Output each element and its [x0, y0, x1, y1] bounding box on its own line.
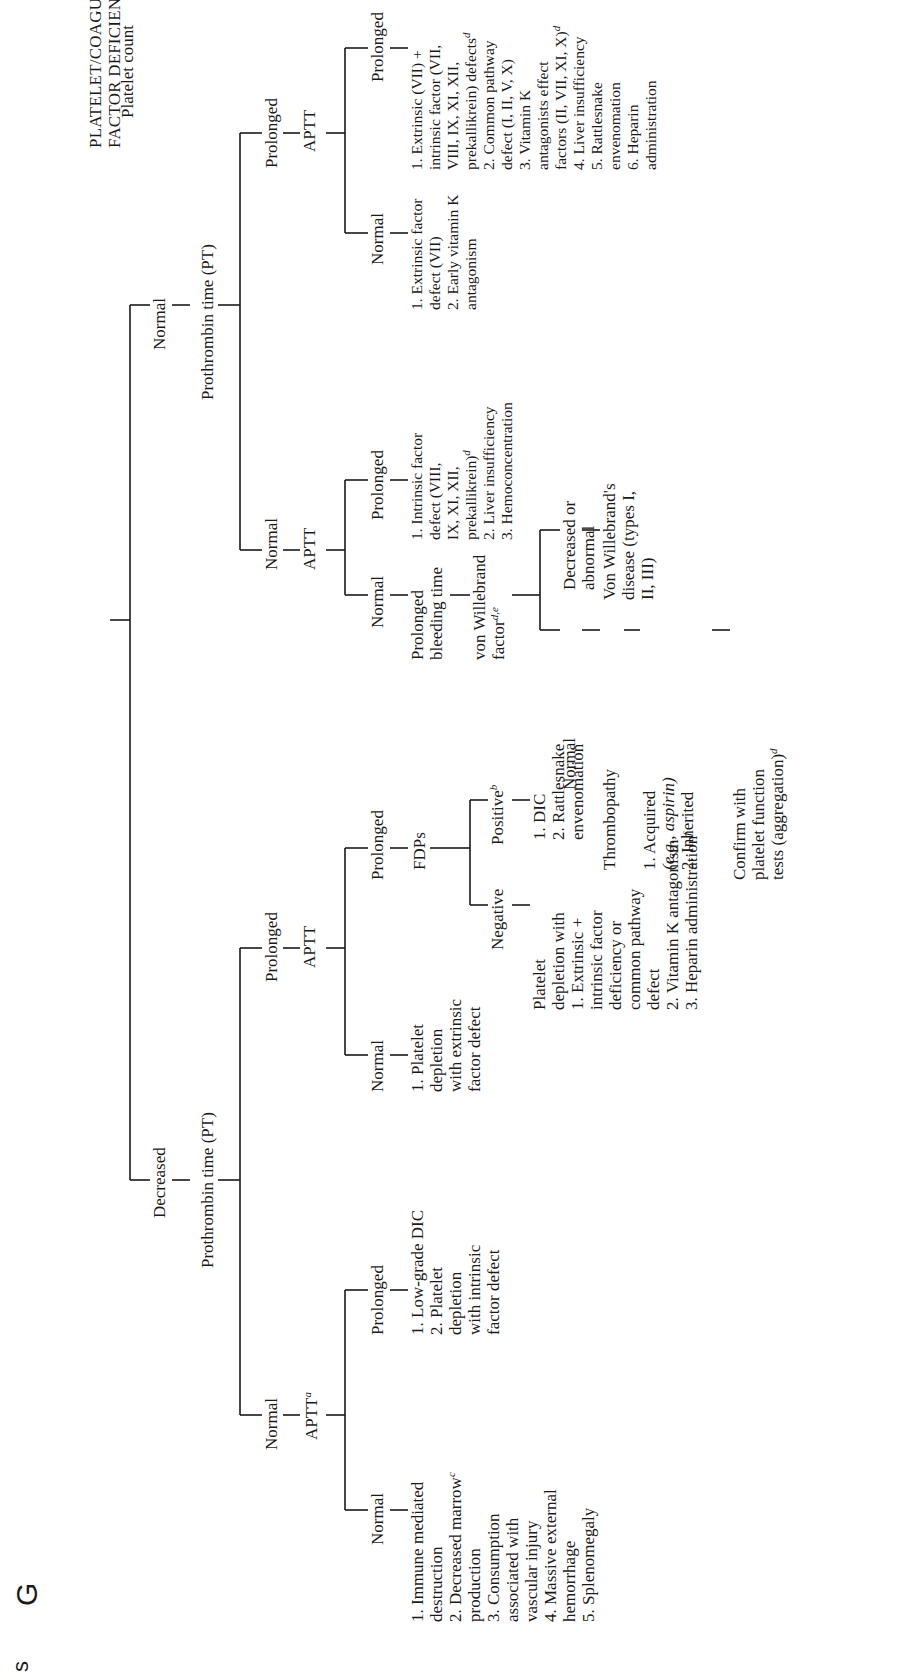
cause-list: Von Willebrand's disease (types I, II, I… [600, 484, 657, 601]
page-edge-mark: s [8, 1661, 34, 1672]
cause-list: 1. Extrinsic factor defect (VII) 2. Earl… [408, 195, 480, 310]
node-platelet-normal: Normal [150, 298, 169, 350]
node-fdps-test: FDPs [410, 832, 429, 870]
node-bleeding-time: Prolonged bleeding time [408, 567, 446, 660]
node-pt-normal: Normal [262, 518, 281, 570]
cause-list: 1. Immune mediated destruction 2. Decrea… [408, 1472, 598, 1622]
node-vwf-test: von Willebrand factord,e [470, 555, 508, 660]
node-aptt-prolonged: Prolonged [368, 450, 387, 520]
node-aptt-normal: Normal [368, 1040, 387, 1092]
node-aptt-normal: Normal [368, 1493, 387, 1545]
node-fdp-negative: Negative [488, 889, 507, 950]
confirm-note: Confirm with platelet function tests (ag… [730, 748, 787, 880]
cause-list: 1. Low-grade DIC 2. Platelet depletion w… [408, 1210, 503, 1335]
node-pt-normal: Normal [262, 1398, 281, 1450]
node-pt-test: Prothrombin time (PT) [198, 1112, 217, 1268]
node-aptt-test: APTT [300, 926, 319, 969]
node-platelet-decreased: Decreased [150, 1147, 169, 1218]
node-aptt-normal: Normal [368, 213, 387, 265]
cause-list: 1. DIC 2. Rattlesnake envenomation [530, 744, 587, 840]
node-pt-test: Prothrombin time (PT) [198, 244, 217, 400]
node-aptt-prolonged: Prolonged [368, 1265, 387, 1335]
cause-list: 1. Platelet depletion with extrinsic fac… [408, 999, 484, 1092]
node-aptt-prolonged: Prolonged [368, 12, 387, 82]
cause-list: Platelet depletion with 1. Extrinsic + i… [530, 833, 701, 1010]
node-fdp-positive: Positiveb [488, 785, 507, 845]
node-aptt-normal: Normal [368, 576, 387, 628]
node-aptt-test: APTTa [302, 1392, 321, 1440]
node-pt-prolonged: Prolonged [262, 912, 281, 982]
node-vwf-decreased: Decreased or abnormal [560, 501, 598, 590]
node-aptt-test: APTT [300, 528, 319, 571]
cause-list: 1. Intrinsic factor defect (VIII, IX, XI… [408, 402, 516, 540]
page-edge-mark: G [10, 1583, 44, 1606]
node-aptt-prolonged: Prolonged [368, 810, 387, 880]
node-aptt-test: APTT [300, 110, 319, 153]
cause-list: 1. Extrinsic (VII) + intrinsic factor (V… [408, 26, 660, 170]
node-pt-prolonged: Prolonged [262, 98, 281, 168]
root-node-platelet-count: Platelet count [118, 25, 137, 118]
